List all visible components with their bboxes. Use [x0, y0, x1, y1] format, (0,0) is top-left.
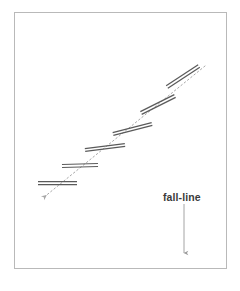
track-segment-2-rail-1	[62, 164, 98, 165]
track-segment-6-rail-1	[166, 65, 198, 86]
track-segment-2-rail-2	[62, 167, 98, 168]
track-segment-2	[62, 164, 98, 168]
ascent-guide-dotted-line	[43, 66, 205, 198]
track-segment-3	[85, 144, 125, 152]
figure-vector-canvas	[0, 0, 240, 291]
ski-track-segments	[38, 65, 200, 185]
track-segment-5-rail-1	[140, 95, 174, 112]
fall-line-label: fall-line	[163, 191, 201, 203]
track-segment-5-rail-2	[142, 97, 176, 114]
track-segment-6-rail-2	[168, 67, 200, 88]
track-segment-6	[166, 65, 200, 89]
track-segment-1	[38, 182, 77, 185]
figure-root: fall-line	[0, 0, 240, 291]
guide-line-path	[43, 66, 205, 198]
